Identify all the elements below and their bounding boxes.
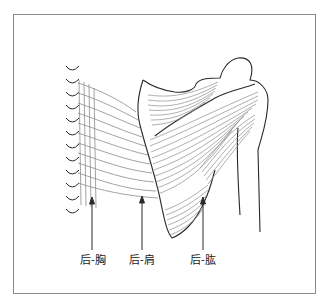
spine-vertebrae: [66, 66, 79, 213]
label-posterior-upper-arm: 后-肱: [190, 251, 216, 267]
shoulder-anatomy-illustration: [0, 0, 328, 304]
label-posterior-chest: 后-胸: [80, 251, 106, 267]
infraspinatus-fibers: [150, 92, 258, 194]
label-posterior-shoulder: 后-肩: [129, 251, 155, 267]
lower-fibers: [165, 185, 208, 235]
